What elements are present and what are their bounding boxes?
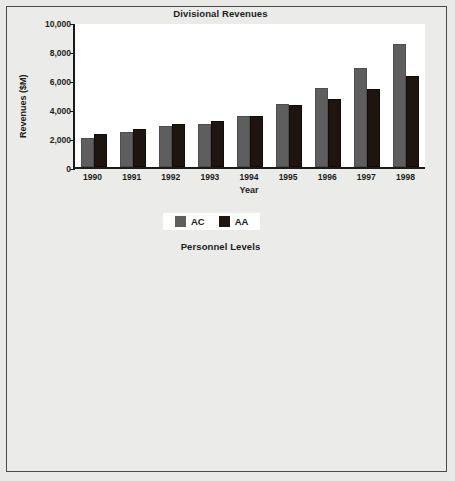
chart-1-legend: ACAA <box>163 213 260 230</box>
bar-wrap <box>198 24 211 167</box>
x-tick-label-1993: 1993 <box>190 172 229 182</box>
bar-AC-1994 <box>237 116 250 167</box>
legend-label-AA: AA <box>235 216 249 227</box>
x-tick-label-1991: 1991 <box>112 172 151 182</box>
bar-AA-1996 <box>328 99 341 167</box>
x-tick-label-1998: 1998 <box>386 172 425 182</box>
bar-wrap <box>81 24 94 167</box>
legend-swatch-AC <box>175 216 186 227</box>
bar-shadow <box>98 138 111 169</box>
bar-shadow <box>137 133 150 169</box>
bar-AA-1993 <box>211 121 224 167</box>
bar-shadow <box>176 128 189 170</box>
bar-AA-1990 <box>94 134 107 167</box>
legend-label-AC: AC <box>191 216 205 227</box>
chart-1-y-tick-label: 0 <box>66 164 71 174</box>
bar-wrap <box>237 24 250 167</box>
bar-wrap <box>172 24 185 167</box>
chart-1-y-axis-title: Revenues ($M) <box>18 74 28 138</box>
chart-1-x-tick-labels: 199019911992199319941995199619971998 <box>73 172 425 182</box>
bar-AC-1990 <box>81 138 94 167</box>
bar-wrap <box>211 24 224 167</box>
x-tick-label-1992: 1992 <box>151 172 190 182</box>
bar-shadow <box>293 109 306 169</box>
bar-group-1994 <box>231 24 270 167</box>
bar-AC-1998 <box>393 44 406 167</box>
chart-2-title: Personnel Levels <box>0 241 441 252</box>
bar-wrap <box>406 24 419 167</box>
bar-wrap <box>367 24 380 167</box>
chart-1-y-tick-label: 4,000 <box>50 106 71 116</box>
bar-AC-1997 <box>354 68 367 167</box>
bar-AC-1996 <box>315 88 328 167</box>
x-tick-label-1994: 1994 <box>229 172 268 182</box>
chart-1-title: Divisional Revenues <box>0 8 441 19</box>
bar-AA-1997 <box>367 89 380 167</box>
bar-AA-1994 <box>250 116 263 167</box>
bar-group-1997 <box>347 24 386 167</box>
bar-group-1991 <box>114 24 153 167</box>
scanned-figure-page: Divisional Revenues Revenues ($M) 02,000… <box>0 0 455 481</box>
chart-1-y-tick-label: 8,000 <box>50 48 71 58</box>
legend-swatch-shadow <box>222 219 233 230</box>
bar-AC-1995 <box>276 104 289 167</box>
bar-AA-1991 <box>133 129 146 167</box>
legend-item-AA: AA <box>219 216 249 227</box>
bar-wrap <box>120 24 133 167</box>
bar-AA-1995 <box>289 105 302 167</box>
bar-AA-1992 <box>172 124 185 168</box>
chart-1-y-tick-label: 10,000 <box>45 19 71 29</box>
x-tick-label-1997: 1997 <box>347 172 386 182</box>
bar-group-1992 <box>153 24 192 167</box>
bar-wrap <box>315 24 328 167</box>
bar-wrap <box>354 24 367 167</box>
bar-wrap <box>328 24 341 167</box>
bar-AA-1998 <box>406 76 419 167</box>
legend-item-AC: AC <box>175 216 205 227</box>
bar-wrap <box>289 24 302 167</box>
bar-group-1995 <box>269 24 308 167</box>
bar-shadow <box>371 93 384 169</box>
bar-wrap <box>133 24 146 167</box>
bar-shadow <box>410 80 423 169</box>
chart-1-y-tick-label: 2,000 <box>50 135 71 145</box>
bar-wrap <box>276 24 289 167</box>
bar-group-1993 <box>192 24 231 167</box>
chart-divisional-revenues: Divisional Revenues Revenues ($M) 02,000… <box>0 2 441 234</box>
bar-wrap <box>393 24 406 167</box>
bar-wrap <box>250 24 263 167</box>
chart-1-plot-area: 02,0004,0006,0008,00010,000 <box>73 24 425 169</box>
bar-shadow <box>332 103 345 169</box>
chart-1-bars <box>75 24 425 167</box>
bar-group-1998 <box>386 24 425 167</box>
chart-personnel-levels: Personnel Levels Personnel 010,00020,000… <box>0 234 441 466</box>
bar-AC-1992 <box>159 126 172 167</box>
bar-group-1990 <box>75 24 114 167</box>
legend-swatch-shadow <box>178 219 189 230</box>
chart-1-y-tick-label: 6,000 <box>50 77 71 87</box>
chart-1-x-axis-title: Year <box>73 185 425 195</box>
x-tick-label-1990: 1990 <box>73 172 112 182</box>
bar-group-1996 <box>308 24 347 167</box>
bar-shadow <box>215 125 228 169</box>
bar-shadow <box>254 120 267 169</box>
bar-wrap <box>94 24 107 167</box>
legend-swatch-AA <box>219 216 230 227</box>
bar-wrap <box>159 24 172 167</box>
bar-AC-1993 <box>198 124 211 167</box>
bar-AC-1991 <box>120 132 133 167</box>
x-tick-label-1995: 1995 <box>269 172 308 182</box>
x-tick-label-1996: 1996 <box>308 172 347 182</box>
